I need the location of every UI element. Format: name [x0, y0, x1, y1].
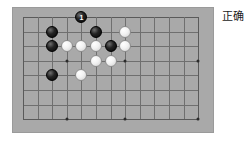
grid-line-vertical [81, 17, 82, 119]
screenshot-root: 1 正确 [0, 0, 250, 141]
stone-white[interactable] [75, 40, 87, 52]
stone-black-move-1[interactable]: 1 [75, 11, 87, 23]
stone-white[interactable] [119, 26, 131, 38]
stone-white[interactable] [90, 40, 102, 52]
star-point [197, 118, 200, 121]
stone-black[interactable] [46, 69, 58, 81]
star-point [124, 118, 127, 121]
star-point [197, 59, 200, 62]
star-point [65, 59, 68, 62]
grid-line-vertical [154, 17, 155, 119]
grid-line-horizontal [23, 119, 198, 120]
grid-line-vertical [184, 17, 185, 119]
stone-white[interactable] [75, 69, 87, 81]
go-board[interactable]: 1 [13, 8, 213, 132]
grid-line-vertical [140, 17, 141, 119]
stone-white[interactable] [90, 55, 102, 67]
star-point [65, 118, 68, 121]
stone-black[interactable] [46, 40, 58, 52]
grid-line-vertical [67, 17, 68, 119]
grid-line-vertical [198, 17, 199, 119]
stone-white[interactable] [105, 55, 117, 67]
caption-label: 正确 [222, 10, 248, 23]
go-board-grid: 1 [13, 8, 213, 132]
grid-line-vertical [169, 17, 170, 119]
grid-line-vertical [111, 17, 112, 119]
stone-white[interactable] [119, 40, 131, 52]
stone-white[interactable] [61, 40, 73, 52]
stone-move-number: 1 [76, 12, 86, 22]
grid-line-vertical [23, 17, 24, 119]
star-point [124, 59, 127, 62]
stone-black[interactable] [90, 26, 102, 38]
stone-black[interactable] [46, 26, 58, 38]
grid-line-vertical [38, 17, 39, 119]
stone-black[interactable] [105, 40, 117, 52]
